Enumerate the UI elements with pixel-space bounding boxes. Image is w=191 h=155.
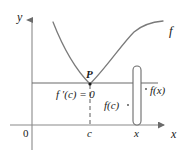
value-label-fx: f(x) [150, 85, 165, 96]
derivative-label: f ′(c) = 0 [56, 89, 95, 100]
curve-label-f: f [169, 24, 173, 37]
function-curve [53, 21, 163, 84]
leader-dot-fx [145, 88, 147, 90]
point-label-p: P [86, 69, 93, 80]
origin-label: 0 [23, 128, 29, 139]
point-p-marker [88, 82, 91, 85]
x-tick-label-x: x [134, 128, 139, 139]
x-axis-label: x [171, 128, 176, 140]
leader-dot-fc [127, 104, 129, 106]
calculus-extremum-figure: y f P f ′(c) = 0 f(c) f(x) 0 c x x [0, 0, 191, 155]
value-label-fc: f(c) [104, 100, 119, 111]
y-axis-label: y [17, 11, 22, 23]
x-tick-label-c: c [87, 128, 92, 139]
value-bar [133, 66, 141, 125]
